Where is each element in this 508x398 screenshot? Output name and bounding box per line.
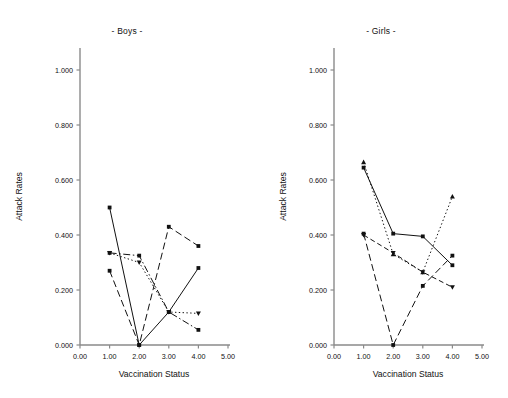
series-series-4 (361, 233, 455, 290)
data-point-marker (137, 261, 142, 266)
x-tick-label: 5.00 (475, 352, 489, 361)
data-point-marker (167, 310, 171, 314)
y-axis-title: Attack Rates (14, 172, 24, 221)
x-tick-label: 3.00 (416, 352, 430, 361)
data-point-marker (391, 251, 396, 256)
series-line (364, 168, 453, 266)
y-tick-label: 0.000 (309, 341, 327, 350)
data-point-marker (108, 251, 112, 255)
y-tick-label: 0.400 (309, 231, 327, 240)
data-point-marker (108, 269, 112, 273)
data-point-marker (137, 254, 141, 258)
data-point-marker (197, 244, 201, 248)
y-tick-label: 0.800 (55, 121, 73, 130)
series-series-1 (108, 206, 201, 347)
y-tick-label: 0.600 (309, 176, 327, 185)
data-point-marker (391, 232, 395, 236)
x-tick-label: 2.00 (386, 352, 400, 361)
data-point-marker (361, 160, 366, 165)
panel-boys: - Boys - 0.0000.2000.4000.6000.8001.0000… (0, 0, 254, 398)
y-tick-label: 0.200 (309, 286, 327, 295)
y-tick-label: 1.000 (309, 66, 327, 75)
data-point-marker (450, 194, 455, 199)
series-line (110, 227, 199, 345)
series-series-2 (362, 232, 455, 347)
x-axis-title: Vaccination Status (119, 369, 190, 379)
data-point-marker (451, 263, 455, 267)
data-point-marker (197, 266, 201, 270)
data-point-marker (108, 206, 112, 210)
x-tick-label: 4.00 (445, 352, 459, 361)
series-line (364, 162, 453, 272)
figure-canvas: - Boys - 0.0000.2000.4000.6000.8001.0000… (0, 0, 508, 398)
data-point-marker (391, 343, 395, 347)
series-line (364, 235, 453, 287)
series-line (110, 208, 199, 346)
x-tick-label: 3.00 (162, 352, 176, 361)
y-tick-label: 0.600 (55, 176, 73, 185)
data-point-marker (167, 225, 171, 229)
series-line (110, 253, 199, 330)
data-point-marker (137, 343, 141, 347)
plot-girls: 0.0000.2000.4000.6000.8001.0000.001.002.… (254, 0, 508, 398)
x-tick-label: 5.00 (221, 352, 235, 361)
data-point-marker (197, 328, 201, 332)
y-tick-label: 0.400 (55, 231, 73, 240)
data-point-marker (421, 284, 425, 288)
data-point-marker (450, 285, 455, 290)
x-tick-label: 2.00 (132, 352, 146, 361)
series-series-3 (361, 160, 455, 275)
plot-boys: 0.0000.2000.4000.6000.8001.0000.001.002.… (0, 0, 254, 398)
data-point-marker (451, 254, 455, 258)
series-line (364, 234, 453, 345)
y-tick-label: 0.800 (309, 121, 327, 130)
y-axis-title: Attack Rates (278, 172, 288, 221)
y-tick-label: 0.200 (55, 286, 73, 295)
y-tick-label: 1.000 (55, 66, 73, 75)
data-point-marker (196, 311, 201, 316)
y-tick-label: 0.000 (55, 341, 73, 350)
x-tick-label: 4.00 (191, 352, 205, 361)
panel-girls: - Girls - 0.0000.2000.4000.6000.8001.000… (254, 0, 508, 398)
x-tick-label: 1.00 (357, 352, 371, 361)
x-tick-label: 0.00 (327, 352, 341, 361)
data-point-marker (421, 234, 425, 238)
x-tick-label: 1.00 (103, 352, 117, 361)
x-axis-title: Vaccination Status (373, 369, 444, 379)
series-series-1 (362, 166, 455, 267)
x-tick-label: 0.00 (73, 352, 87, 361)
